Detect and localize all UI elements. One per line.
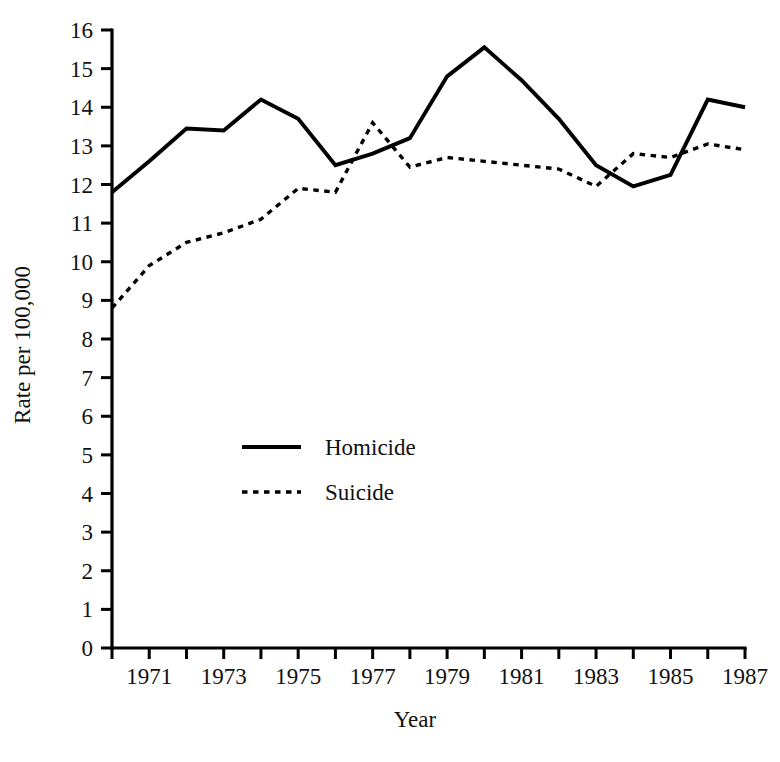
x-axis: 197119731975197719791981198319851987: [112, 648, 768, 689]
x-tick-label: 1981: [499, 664, 545, 689]
x-tick-label: 1983: [573, 664, 619, 689]
y-tick-label: 15: [70, 57, 93, 82]
series-line-suicide: [112, 123, 745, 308]
y-tick-label: 16: [70, 18, 93, 43]
y-tick-label: 6: [82, 404, 94, 429]
y-tick-label: 8: [82, 327, 94, 352]
x-axis-title: Year: [394, 707, 437, 732]
y-tick-label: 1: [82, 597, 94, 622]
x-tick-label: 1985: [648, 664, 694, 689]
y-tick-label: 11: [71, 211, 93, 236]
series-line-homicide: [112, 47, 745, 192]
x-tick-label: 1979: [424, 664, 470, 689]
y-tick-label: 3: [82, 520, 94, 545]
y-axis-title: Rate per 100,000: [10, 266, 35, 424]
y-tick-label: 13: [70, 134, 93, 159]
x-tick-label: 1975: [275, 664, 321, 689]
y-tick-label: 10: [70, 250, 93, 275]
y-tick-label: 9: [82, 288, 94, 313]
x-tick-label: 1987: [722, 664, 768, 689]
y-tick-label: 4: [82, 482, 94, 507]
legend-label-homicide: Homicide: [325, 435, 416, 460]
x-tick-label: 1977: [350, 664, 396, 689]
chart-legend: HomicideSuicide: [242, 435, 416, 505]
line-chart: 012345678910111213141516 197119731975197…: [0, 0, 780, 762]
y-tick-label: 14: [70, 95, 94, 120]
y-tick-label: 2: [82, 559, 94, 584]
y-tick-label: 7: [82, 366, 94, 391]
y-tick-label: 0: [82, 636, 94, 661]
x-tick-label: 1973: [201, 664, 247, 689]
y-tick-label: 12: [70, 173, 93, 198]
y-tick-label: 5: [82, 443, 94, 468]
data-series-group: [112, 47, 745, 308]
x-tick-label: 1971: [126, 664, 172, 689]
legend-label-suicide: Suicide: [325, 480, 394, 505]
chart-canvas: 012345678910111213141516 197119731975197…: [0, 0, 780, 762]
y-axis: 012345678910111213141516: [70, 18, 112, 661]
